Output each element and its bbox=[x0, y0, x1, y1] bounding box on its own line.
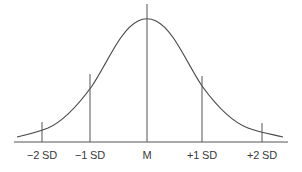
bell-curve bbox=[17, 19, 283, 137]
normal-distribution-diagram bbox=[0, 0, 302, 172]
label-minus-2sd: −2 SD bbox=[27, 149, 57, 161]
label-plus-2sd: +2 SD bbox=[247, 149, 277, 161]
label-mean: M bbox=[143, 149, 152, 161]
label-minus-1sd: −1 SD bbox=[75, 149, 105, 161]
label-plus-1sd: +1 SD bbox=[187, 149, 217, 161]
